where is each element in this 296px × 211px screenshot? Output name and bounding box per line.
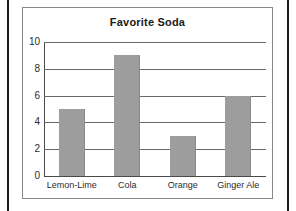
y-axis-line [44, 42, 45, 177]
bar [59, 109, 85, 176]
category-label: Cola [118, 180, 137, 190]
y-tick-label-4: 4 [34, 117, 40, 127]
y-tick-label-2: 2 [34, 144, 40, 154]
bar [225, 96, 251, 176]
y-tick-label-8: 8 [34, 64, 40, 74]
category-label: Lemon-Lime [47, 180, 97, 190]
x-axis-line [44, 176, 266, 177]
y-tick-label-6: 6 [34, 91, 40, 101]
page-right-rule [287, 0, 289, 211]
chart-panel: Favorite Soda 0246810 Lemon-LimeColaOran… [22, 7, 273, 199]
plot-area: 0246810 Lemon-LimeColaOrangeGinger Ale [44, 42, 266, 176]
bar [114, 55, 140, 176]
page-frame: Favorite Soda 0246810 Lemon-LimeColaOran… [0, 0, 296, 211]
gridline-10 [44, 42, 266, 43]
y-tick-label-10: 10 [29, 37, 40, 47]
chart-title: Favorite Soda [23, 16, 272, 28]
category-label: Ginger Ale [217, 180, 259, 190]
category-label: Orange [168, 180, 198, 190]
y-tick-label-0: 0 [34, 171, 40, 181]
bar [170, 136, 196, 176]
page-left-rule [7, 0, 9, 211]
gridline-8 [44, 69, 266, 70]
